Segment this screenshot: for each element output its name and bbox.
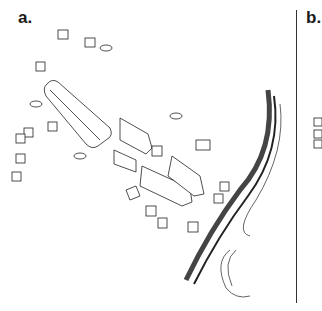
- hut: [188, 222, 198, 232]
- hut: [158, 218, 167, 228]
- enclosure: [126, 186, 140, 200]
- hut: [16, 154, 25, 163]
- longhouse-3: [114, 150, 136, 172]
- hut: [214, 194, 223, 203]
- longhouse-2: [120, 118, 152, 154]
- hut: [58, 30, 68, 39]
- hut: [85, 38, 95, 47]
- hut: [220, 182, 229, 191]
- hut: [152, 146, 162, 156]
- hut: [36, 62, 45, 71]
- animal: [170, 113, 182, 119]
- hut: [12, 172, 21, 181]
- longhouse-large: [44, 80, 111, 147]
- animal: [100, 45, 112, 51]
- hut: [16, 134, 25, 143]
- settlement-illustration: [0, 0, 322, 311]
- hut: [196, 140, 210, 150]
- hut: [48, 122, 57, 131]
- animal: [30, 101, 42, 107]
- hut: [146, 206, 156, 216]
- animal: [74, 153, 86, 159]
